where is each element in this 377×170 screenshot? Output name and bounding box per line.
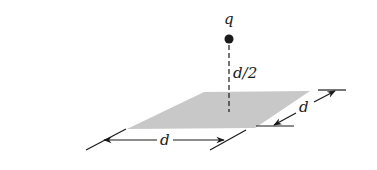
depth-arrow-top [314, 91, 335, 102]
charge-label: q [224, 10, 234, 28]
height-label: d/2 [233, 64, 257, 82]
square-plate [127, 91, 310, 129]
depth-label: d [299, 98, 309, 116]
width-label: d [160, 131, 170, 149]
depth-arrow-bottom [274, 113, 296, 125]
diagram-canvas: q d/2 d d [0, 0, 377, 170]
point-charge-icon [225, 35, 234, 44]
